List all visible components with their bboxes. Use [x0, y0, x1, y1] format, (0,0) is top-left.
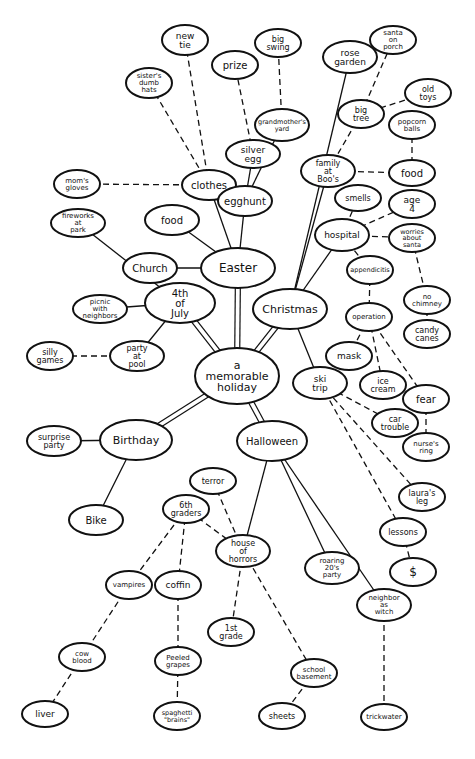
node-christmas: Christmas — [253, 289, 327, 329]
node-label: Boo's — [317, 175, 339, 184]
node-label: chimney — [412, 300, 442, 308]
node-age4: age4 — [389, 190, 435, 218]
node-label: food — [401, 168, 423, 179]
node-label: pool — [128, 360, 145, 369]
node-egghunt: egghunt — [218, 186, 272, 216]
node-sheets: sheets — [259, 703, 305, 729]
node-label: neighbors — [83, 312, 118, 320]
node-cow_blood: cowblood — [59, 643, 105, 671]
node-car_trouble: cartrouble — [372, 409, 418, 437]
node-vampires: vampires — [106, 571, 152, 599]
node-candy_canes: candycanes — [404, 320, 450, 348]
node-label: graders — [171, 509, 202, 518]
node-lessons: lessons — [380, 518, 426, 546]
node-label: party — [323, 571, 342, 579]
node-label: ring — [419, 447, 433, 455]
node-label: trip — [312, 383, 328, 393]
node-label: cream — [370, 385, 395, 394]
node-label: witch — [375, 608, 394, 616]
node-label: tie — [179, 40, 191, 50]
node-mask: mask — [326, 342, 372, 370]
node-big_swing: bigswing — [255, 29, 301, 57]
node-surprise: surpriseparty — [27, 426, 81, 456]
edge-house_horrors-school_base — [243, 551, 314, 673]
node-prize: prize — [212, 51, 258, 79]
node-label: garden — [334, 57, 366, 67]
node-trickwater: trickwater — [361, 704, 407, 730]
node-label: terror — [202, 477, 225, 486]
node-sixth: 6thgraders — [163, 495, 209, 523]
node-label: liver — [35, 709, 55, 719]
node-dollar: $ — [390, 558, 436, 586]
node-label: hospital — [324, 230, 360, 240]
node-label: gloves — [66, 184, 89, 192]
node-family: familyatBoo's — [301, 155, 355, 187]
node-label: toys — [420, 93, 437, 102]
node-school_base: schoolbasement — [291, 659, 337, 687]
node-label: porch — [383, 43, 403, 51]
node-bike: Bike — [69, 505, 123, 535]
node-santa_porch: santaonporch — [370, 26, 416, 54]
node-ice_cream: icecream — [360, 371, 406, 399]
node-halloween: Halloween — [237, 421, 307, 461]
node-fireworks: fireworksatpark — [51, 209, 105, 237]
mind-map-diagram: amemorableholidayEasterChristmas4thofJul… — [0, 0, 475, 759]
node-grandmothers: grandmother'syard — [255, 109, 309, 141]
node-old_toys: oldtoys — [405, 79, 451, 107]
node-label: trouble — [381, 423, 410, 432]
node-picnic: picnicwithneighbors — [73, 295, 127, 323]
node-label: Easter — [219, 261, 257, 275]
node-label: July — [170, 308, 189, 319]
node-rose_garden: rosegarden — [323, 41, 377, 73]
node-label: park — [70, 226, 87, 234]
node-label: games — [37, 356, 64, 365]
node-label: Bike — [85, 515, 106, 526]
node-popcorn: popcornballs — [389, 111, 435, 139]
node-big_tree: bigtree — [338, 100, 384, 128]
edge-clothes-new_tie — [185, 40, 209, 185]
node-label: egghunt — [224, 196, 266, 207]
node-food_c: food — [389, 160, 435, 186]
mind-map-svg: amemorableholidayEasterChristmas4thofJul… — [0, 0, 475, 759]
node-label: mask — [337, 351, 362, 361]
node-label: grapes — [166, 661, 190, 669]
node-label: hats — [141, 86, 156, 94]
node-label: $ — [409, 565, 417, 579]
node-label: grade — [219, 632, 242, 641]
node-easter: Easter — [201, 248, 275, 288]
node-first_grade: 1stgrade — [208, 618, 254, 646]
node-label: appendicitis — [350, 266, 390, 274]
node-ski_trip: skitrip — [293, 367, 347, 399]
node-liver: liver — [22, 701, 68, 727]
node-label: party — [43, 441, 64, 450]
node-church: Church — [123, 253, 177, 283]
node-fear: fear — [403, 385, 449, 413]
node-house_horrors: houseofhorrors — [216, 535, 270, 567]
node-label: tree — [353, 114, 369, 123]
node-label: Church — [132, 263, 167, 274]
node-party_pool: partyatpool — [110, 341, 164, 371]
node-label: "brains" — [164, 716, 190, 724]
node-neighbor: neighboraswitch — [357, 589, 411, 621]
node-nurses_ring: nurse'sring — [403, 433, 449, 461]
node-operation: operation — [346, 303, 392, 331]
node-label: Birthday — [113, 434, 160, 447]
node-sisters: sister'sdumbhats — [126, 68, 172, 98]
node-silly_games: sillygames — [27, 342, 73, 370]
node-label: holiday — [217, 381, 258, 394]
node-label: coffin — [166, 580, 191, 590]
node-lauras_leg: laura'sleg — [399, 483, 445, 511]
node-label: basement — [297, 673, 332, 681]
node-label: sheets — [269, 712, 295, 721]
node-label: trickwater — [366, 713, 402, 721]
node-label: Christmas — [262, 303, 318, 316]
node-label: horrors — [229, 555, 258, 564]
node-label: 4 — [409, 204, 415, 214]
node-moms_gloves: mom'sgloves — [54, 170, 100, 198]
node-silver_egg: silveregg — [226, 140, 280, 168]
node-smells: smells — [335, 185, 381, 211]
node-label: swing — [266, 43, 289, 52]
node-birthday: Birthday — [100, 420, 172, 460]
node-coffin: coffin — [155, 571, 201, 599]
node-label: canes — [415, 334, 438, 343]
